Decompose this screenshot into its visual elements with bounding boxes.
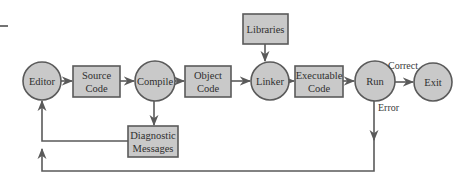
node-diagnostic-label-2: Messages — [133, 143, 174, 154]
node-source-label-1: Source — [82, 70, 111, 81]
edges — [42, 44, 413, 171]
node-editor: Editor — [23, 62, 61, 100]
node-executable-label-1: Executable — [296, 70, 343, 81]
node-executable-code: Executable Code — [295, 66, 343, 97]
node-compile-label: Compile — [137, 76, 174, 87]
node-run-label: Run — [366, 76, 384, 87]
flowchart-diagram: Editor Source Code Compile Object Code L… — [0, 0, 473, 182]
node-exit: Exit — [414, 63, 452, 101]
node-object-label-2: Code — [197, 83, 220, 94]
node-source-label-2: Code — [85, 83, 108, 94]
node-libraries: Libraries — [243, 14, 288, 44]
node-diagnostic-label-1: Diagnostic — [130, 130, 176, 141]
node-linker: Linker — [251, 62, 289, 100]
node-linker-label: Linker — [256, 76, 284, 87]
node-source-code: Source Code — [73, 66, 120, 97]
node-editor-label: Editor — [29, 76, 56, 87]
node-libraries-label: Libraries — [247, 24, 285, 35]
node-object-code: Object Code — [185, 66, 231, 97]
edge-diagnostic-editor — [42, 101, 128, 141]
node-executable-label-2: Code — [308, 83, 331, 94]
node-diagnostic-messages: Diagnostic Messages — [128, 126, 178, 157]
edge-label-correct: Correct — [388, 60, 418, 71]
node-exit-label: Exit — [424, 77, 442, 88]
node-object-label-1: Object — [194, 70, 222, 81]
node-compile: Compile — [135, 61, 175, 101]
edge-label-error: Error — [378, 102, 400, 113]
edge-error-loop — [42, 138, 374, 171]
